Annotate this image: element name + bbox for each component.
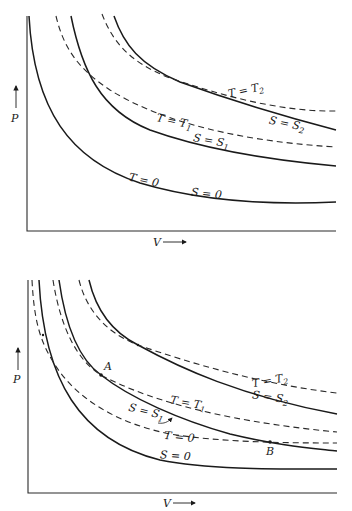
svg-text:T = 0: T = 0 [163, 429, 195, 445]
bottom-label-s2: S = S2 [251, 388, 289, 408]
top-label-t0: T = 0 [128, 171, 161, 190]
svg-text:T = T2: T = T2 [227, 80, 265, 102]
point-b-label: B [265, 445, 274, 458]
svg-text:S = S2: S = S2 [267, 114, 306, 136]
top-label-s1: S = S1 [192, 131, 230, 152]
svg-text:S = 0: S = 0 [160, 448, 192, 463]
top-diagram: P V T = T2 S = S2 T = T1 S = S1 T = 0 S … [10, 14, 336, 249]
point-a [99, 373, 103, 377]
bottom-v-label: V [163, 497, 172, 510]
top-p-label: P [10, 112, 19, 125]
pv-diagrams: P V T = T2 S = S2 T = T1 S = S1 T = 0 S … [0, 0, 352, 511]
svg-text:T = T1: T = T1 [169, 394, 207, 415]
bottom-label-t1: T = T1 [169, 394, 207, 415]
bottom-label-t0: T = 0 [163, 429, 195, 445]
top-curve-s2 [114, 16, 336, 130]
tangent-point-t2-s2 [137, 344, 139, 346]
svg-text:S = 0: S = 0 [191, 186, 223, 202]
top-label-s2: S = S2 [267, 114, 306, 136]
top-v-label: V [153, 236, 162, 249]
svg-text:S = S1: S = S1 [192, 131, 230, 152]
bottom-p-label: P [12, 373, 21, 386]
top-label-t2: T = T2 [227, 80, 265, 102]
top-label-s0: S = 0 [191, 186, 223, 202]
svg-text:T = 0: T = 0 [128, 171, 161, 190]
tangent-point-t0-s0 [42, 334, 44, 336]
bottom-curve-t2 [79, 280, 337, 393]
top-curve-t2 [102, 14, 336, 111]
top-curve-s0-t0 [29, 16, 336, 203]
bottom-diagram: P V A B T = T2 S = S2 T = T1 S [12, 280, 337, 510]
svg-text:S = S1: S = S1 [127, 401, 166, 424]
svg-text:T = T1: T = T1 [155, 111, 193, 133]
bottom-label-s1: S = S1 [127, 401, 166, 424]
top-label-t1: T = T1 [155, 111, 193, 133]
point-a-label: A [103, 360, 112, 373]
bottom-label-s0: S = 0 [160, 448, 192, 463]
bottom-curve-s1 [59, 280, 337, 451]
point-b [268, 440, 272, 444]
bottom-curve-s2 [89, 280, 337, 414]
svg-text:S = S2: S = S2 [251, 388, 289, 408]
